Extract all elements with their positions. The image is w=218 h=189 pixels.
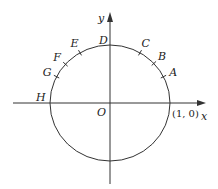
point-label-c: C — [142, 37, 151, 50]
point-label-h: H — [35, 91, 46, 104]
x-axis-label: x — [201, 110, 208, 123]
y-axis-arrow-icon — [107, 12, 113, 22]
point-label-d: D — [98, 34, 108, 47]
unit-circle-diagram: ABCEFG y x O (1, 0) D H — [0, 0, 218, 189]
point-label-a: A — [168, 66, 177, 79]
point-label-b: B — [157, 50, 166, 63]
x-axis-arrow-icon — [197, 100, 206, 106]
origin-label: O — [97, 106, 106, 119]
point-label-e: E — [70, 37, 79, 50]
point-label-g: G — [43, 66, 52, 79]
point-label-f: F — [52, 51, 61, 64]
unit-point-label: (1, 0) — [172, 108, 199, 119]
y-axis-label: y — [97, 12, 105, 25]
